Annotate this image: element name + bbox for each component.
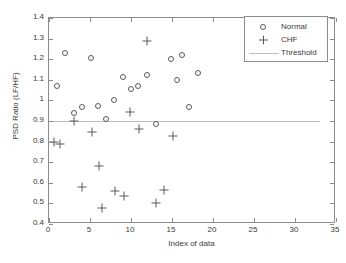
y-axis-tick-labels: 0.40.50.60.70.80.911.11.21.31.4 [16,17,44,223]
y-axis-tick-label: 0.8 [33,137,44,145]
data-point-normal [174,77,180,83]
x-axis-tick [213,218,214,222]
data-point-chf [135,125,144,134]
data-point-normal [186,104,192,110]
y-axis-tick [330,80,334,81]
y-axis-tick [330,39,334,40]
legend-box: Normal CHF Threshold [244,16,328,62]
y-axis-tick-label: 0.5 [33,198,44,206]
x-axis-tick-label: 25 [249,226,258,234]
data-point-normal [120,74,126,80]
x-axis-tick-label: 20 [208,226,217,234]
line-marker-icon [245,46,281,59]
x-axis-tick [49,18,50,22]
legend-label-threshold: Threshold [281,49,317,57]
data-point-chf [55,139,64,148]
y-axis-tick [49,142,53,143]
x-axis-tick [90,218,91,222]
legend-entry-threshold: Threshold [245,46,327,59]
data-point-normal [95,103,101,109]
y-axis-tick [49,80,53,81]
data-point-normal [195,70,201,76]
data-point-chf [152,199,161,208]
data-point-chf [87,128,96,137]
x-axis-tick-labels: 05101520253035 [48,226,335,238]
data-point-chf [95,162,104,171]
x-axis-tick-label: 30 [290,226,299,234]
plus-marker-icon [245,33,281,46]
y-axis-tick [330,59,334,60]
x-axis-tick-label: 0 [46,226,50,234]
data-point-chf [168,132,177,141]
y-axis-tick-label: 0.6 [33,178,44,186]
data-point-chf [119,192,128,201]
y-axis-tick [330,121,334,122]
y-axis-tick [330,162,334,163]
y-axis-tick [330,100,334,101]
y-axis-tick-label: 1.4 [33,13,44,21]
data-point-normal [54,83,60,89]
y-axis-tick [49,59,53,60]
y-axis-tick [330,203,334,204]
y-axis-tick [49,39,53,40]
data-point-normal [135,83,141,89]
x-axis-tick [172,218,173,222]
y-axis-tick [49,203,53,204]
y-axis-tick-label: 0.7 [33,157,44,165]
data-point-normal [62,50,68,56]
data-point-normal [88,55,94,61]
x-axis-tick [336,18,337,22]
x-axis-tick [295,218,296,222]
x-axis-tick [90,18,91,22]
data-point-chf [77,182,86,191]
data-point-normal [179,52,185,58]
y-axis-tick [49,183,53,184]
y-axis-title: PSD Ratio (LF/HF) [12,36,20,176]
y-axis-tick [330,142,334,143]
x-axis-tick [336,218,337,222]
y-axis-tick [49,121,53,122]
y-axis-tick-label: 1.3 [33,34,44,42]
y-axis-tick [330,183,334,184]
x-axis-tick-label: 10 [126,226,135,234]
legend-entry-normal: Normal [245,20,327,33]
data-point-chf [111,187,120,196]
data-point-normal [144,72,150,78]
legend-label-chf: CHF [281,36,297,44]
figure-scatter-psd-ratio: 0.40.50.60.70.80.911.11.21.31.4 PSD Rati… [0,0,346,263]
y-axis-tick-label: 0.9 [33,116,44,124]
data-point-normal [71,110,77,116]
data-point-normal [79,104,85,110]
x-axis-tick-label: 15 [167,226,176,234]
data-point-chf [98,203,107,212]
threshold-line [49,121,320,122]
data-point-normal [128,86,134,92]
y-axis-tick [49,100,53,101]
x-axis-tick-label: 35 [331,226,340,234]
x-axis-title: Index of data [48,240,335,248]
x-axis-tick [254,218,255,222]
data-point-chf [159,186,168,195]
x-axis-tick-label: 5 [87,226,91,234]
y-axis-tick-label: 1.2 [33,54,44,62]
x-axis-tick [172,18,173,22]
x-axis-tick [131,218,132,222]
legend-entry-chf: CHF [245,33,327,46]
circle-marker-icon [245,20,281,33]
y-axis-tick-label: 0.4 [33,219,44,227]
y-axis-tick-label: 1 [40,95,44,103]
data-point-normal [111,97,117,103]
legend-label-normal: Normal [281,23,307,31]
y-axis-tick [330,18,334,19]
x-axis-tick [131,18,132,22]
y-axis-tick-label: 1.1 [33,75,44,83]
data-point-chf [126,107,135,116]
data-point-chf [143,36,152,45]
x-axis-tick [49,218,50,222]
x-axis-tick [213,18,214,22]
data-point-normal [168,56,174,62]
y-axis-tick [49,162,53,163]
